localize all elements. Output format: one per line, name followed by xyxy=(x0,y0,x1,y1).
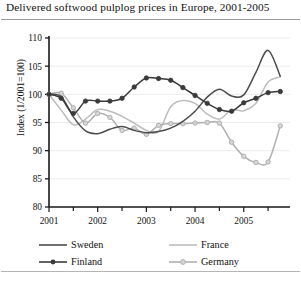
data-point-germany xyxy=(242,154,246,158)
data-point-germany xyxy=(71,106,75,110)
legend-label-germany: Germany xyxy=(201,256,239,267)
x-tick-label: 2003 xyxy=(137,216,156,226)
data-point-finland xyxy=(144,76,148,80)
y-tick-label: 100 xyxy=(28,90,42,100)
data-point-finland xyxy=(217,107,221,111)
data-point-finland xyxy=(266,90,270,94)
data-point-finland xyxy=(132,85,136,89)
data-point-germany xyxy=(95,111,99,115)
y-tick-label: 80 xyxy=(33,202,43,212)
legend-label-sweden: Sweden xyxy=(71,239,103,250)
legend-label-finland: Finland xyxy=(71,256,102,267)
y-tick-label: 110 xyxy=(28,33,42,43)
chart-title: Delivered softwood pulplog prices in Eur… xyxy=(6,1,296,13)
data-point-finland xyxy=(254,96,258,100)
legend-column-right: France Germany xyxy=(168,236,298,270)
legend-item-sweden: Sweden xyxy=(38,236,168,253)
legend-item-france: France xyxy=(168,236,298,253)
data-point-germany xyxy=(278,124,282,128)
data-point-finland xyxy=(83,99,87,103)
legend-swatch-germany xyxy=(168,256,198,268)
data-point-finland xyxy=(242,101,246,105)
series-line-finland xyxy=(49,77,280,113)
legend-item-germany: Germany xyxy=(168,253,298,270)
data-point-germany xyxy=(193,121,197,125)
data-point-finland xyxy=(169,78,173,82)
legend-item-finland: Finland xyxy=(38,253,168,270)
data-point-germany xyxy=(217,121,221,125)
data-point-finland xyxy=(229,109,233,113)
chart-legend: Sweden Finland France Germany xyxy=(0,236,301,270)
data-point-finland xyxy=(95,99,99,103)
data-point-germany xyxy=(120,128,124,132)
data-point-finland xyxy=(278,89,282,93)
data-point-germany xyxy=(169,121,173,125)
data-point-finland xyxy=(205,101,209,105)
data-point-finland xyxy=(47,92,51,96)
title-divider xyxy=(1,19,300,20)
data-point-germany xyxy=(266,160,270,164)
x-tick-label: 2002 xyxy=(88,216,107,226)
x-tick-label: 2005 xyxy=(234,216,253,226)
y-tick-label: 95 xyxy=(33,118,43,128)
y-tick-label: 85 xyxy=(33,174,43,184)
data-point-germany xyxy=(156,123,160,127)
data-point-finland xyxy=(156,76,160,80)
legend-column-left: Sweden Finland xyxy=(38,236,168,270)
x-tick-label: 2004 xyxy=(186,216,205,226)
figure-container: Delivered softwood pulplog prices in Eur… xyxy=(0,0,301,284)
data-point-germany xyxy=(205,120,209,124)
y-tick-label: 105 xyxy=(28,62,42,72)
legend-swatch-finland xyxy=(38,256,68,268)
y-tick-label: 90 xyxy=(33,146,43,156)
data-point-finland xyxy=(120,96,124,100)
data-point-finland xyxy=(59,96,63,100)
data-point-germany xyxy=(108,115,112,119)
data-point-germany xyxy=(254,160,258,164)
data-point-finland xyxy=(181,85,185,89)
data-point-finland xyxy=(108,99,112,103)
legend-swatch-france xyxy=(168,239,198,251)
legend-label-france: France xyxy=(201,239,229,250)
legend-swatch-sweden xyxy=(38,239,68,251)
data-point-germany xyxy=(83,121,87,125)
x-tick-label: 2001 xyxy=(40,216,59,226)
data-point-germany xyxy=(229,140,233,144)
data-point-finland xyxy=(71,111,75,115)
line-chart-plot: 8085909510010511020012002200320042005 xyxy=(0,22,301,236)
footer-divider xyxy=(1,271,300,272)
data-point-finland xyxy=(193,93,197,97)
